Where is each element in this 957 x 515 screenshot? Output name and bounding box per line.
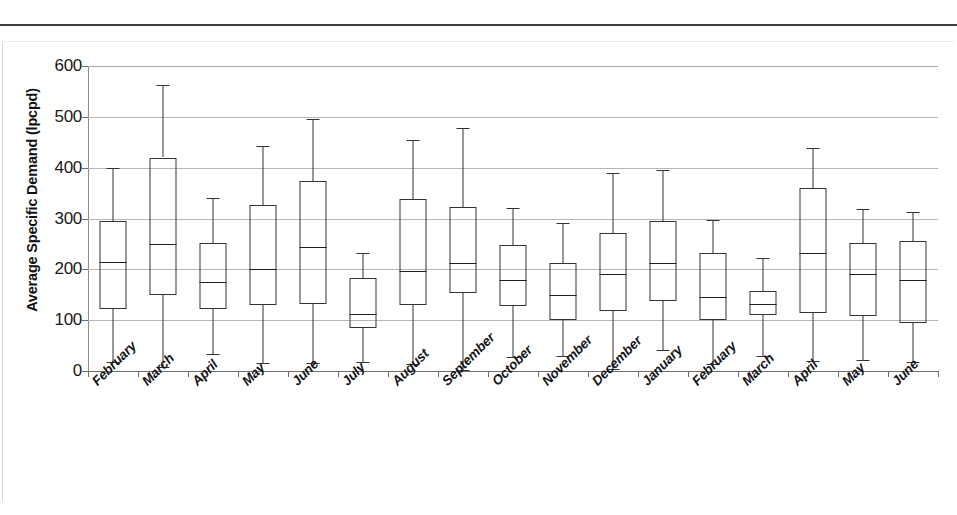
upper-whisker-cap (507, 208, 520, 209)
median-line (200, 282, 227, 283)
lower-whisker-cap (607, 369, 620, 370)
lower-whisker-cap (357, 362, 370, 363)
interquartile-box (450, 207, 477, 293)
median-line (100, 262, 127, 263)
lower-whisker (813, 313, 814, 361)
lower-whisker-cap (807, 361, 820, 362)
lower-whisker-cap (907, 362, 920, 363)
median-line (350, 314, 377, 315)
upper-whisker-cap (457, 128, 470, 129)
box-plot-march-13[interactable] (738, 66, 788, 371)
box-plot-february-0[interactable] (88, 66, 138, 371)
box-plot-july-5[interactable] (338, 66, 388, 371)
interquartile-box (150, 158, 177, 295)
box-plot-april-14[interactable] (788, 66, 838, 371)
lower-whisker (613, 311, 614, 369)
median-line (300, 247, 327, 248)
upper-whisker (713, 220, 714, 253)
upper-whisker (163, 85, 164, 157)
lower-whisker (413, 305, 414, 364)
upper-whisker-cap (757, 258, 770, 259)
interquartile-box (100, 221, 127, 309)
lower-whisker (263, 305, 264, 363)
lower-whisker (863, 316, 864, 360)
upper-whisker-cap (707, 220, 720, 221)
box-plot-december-10[interactable] (588, 66, 638, 371)
box-plot-january-11[interactable] (638, 66, 688, 371)
lower-whisker (563, 320, 564, 356)
upper-whisker-cap (157, 85, 170, 86)
y-axis-tick-label: 100 (34, 310, 82, 330)
upper-whisker (513, 208, 514, 245)
lower-whisker (513, 306, 514, 356)
interquartile-box (300, 181, 327, 304)
upper-whisker (613, 173, 614, 233)
upper-whisker-cap (907, 212, 920, 213)
lower-whisker (363, 328, 364, 363)
median-line (850, 274, 877, 275)
box-plot-march-1[interactable] (138, 66, 188, 371)
median-line (450, 263, 477, 264)
box-plot-february-12[interactable] (688, 66, 738, 371)
interquartile-box (200, 243, 227, 309)
box-plot-may-15[interactable] (838, 66, 888, 371)
median-line (600, 274, 627, 275)
upper-whisker (363, 253, 364, 278)
upper-whisker-cap (257, 146, 270, 147)
box-plot-may-3[interactable] (238, 66, 288, 371)
upper-whisker (763, 258, 764, 291)
box-plot-june-4[interactable] (288, 66, 338, 371)
upper-whisker-cap (557, 223, 570, 224)
y-axis-tick-label: 300 (34, 209, 82, 229)
interquartile-box (850, 243, 877, 316)
page-root: Average Specific Demand (lpcpd) 01002003… (0, 0, 957, 515)
median-line (500, 280, 527, 281)
y-axis-tick-labels: 0100200300400500600 (30, 66, 82, 371)
upper-whisker (113, 168, 114, 221)
lower-whisker-cap (857, 360, 870, 361)
upper-whisker (463, 128, 464, 207)
y-axis-tick-label: 200 (34, 259, 82, 279)
interquartile-box (900, 241, 927, 322)
interquartile-box (650, 221, 677, 301)
y-axis-tick-label: 600 (34, 56, 82, 76)
median-line (150, 244, 177, 245)
box-plot-area (88, 66, 938, 371)
box-plot-october-8[interactable] (488, 66, 538, 371)
lower-whisker-cap (757, 356, 770, 357)
upper-whisker (313, 119, 314, 181)
y-axis-tick-label: 500 (34, 107, 82, 127)
upper-whisker-cap (807, 148, 820, 149)
upper-whisker-cap (307, 119, 320, 120)
median-line (800, 253, 827, 254)
lower-whisker (763, 315, 764, 356)
lower-whisker-cap (557, 356, 570, 357)
lower-whisker-cap (707, 364, 720, 365)
box-plot-september-7[interactable] (438, 66, 488, 371)
upper-whisker-cap (407, 140, 420, 141)
lower-whisker-cap (657, 350, 670, 351)
box-plot-august-6[interactable] (388, 66, 438, 371)
median-line (650, 263, 677, 264)
scan-artifact-text (300, 0, 957, 12)
median-line (550, 295, 577, 296)
header-divider-rule (0, 24, 957, 26)
upper-whisker (863, 209, 864, 243)
median-line (900, 280, 927, 281)
y-axis-tick-label: 400 (34, 158, 82, 178)
median-line (400, 271, 427, 272)
upper-whisker (413, 140, 414, 199)
box-plot-june-16[interactable] (888, 66, 938, 371)
upper-whisker (563, 223, 564, 263)
upper-whisker-cap (357, 253, 370, 254)
lower-whisker-cap (507, 357, 520, 358)
lower-whisker-cap (257, 363, 270, 364)
upper-whisker (263, 146, 264, 204)
box-plot-april-2[interactable] (188, 66, 238, 371)
interquartile-box (750, 291, 777, 315)
interquartile-box (250, 205, 277, 305)
box-plot-november-9[interactable] (538, 66, 588, 371)
lower-whisker (913, 323, 914, 363)
lower-whisker (713, 320, 714, 364)
lower-whisker (213, 309, 214, 354)
